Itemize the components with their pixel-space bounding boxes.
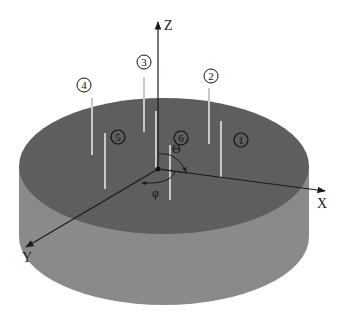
diagram-canvas: Z X Y Θ φ 4 3 2 5 6 1 <box>0 0 343 322</box>
svg-text:4: 4 <box>81 79 87 91</box>
y-axis-label: Y <box>22 250 32 265</box>
svg-text:5: 5 <box>115 131 121 143</box>
phi-label: φ <box>152 186 159 200</box>
marker-4: 4 <box>77 78 91 92</box>
svg-text:1: 1 <box>238 134 244 146</box>
marker-2: 2 <box>204 69 218 83</box>
marker-3: 3 <box>137 55 151 69</box>
cylinder-top <box>19 98 309 234</box>
z-axis-label: Z <box>164 18 173 33</box>
x-axis-label: X <box>317 196 327 211</box>
svg-text:2: 2 <box>208 70 214 82</box>
svg-text:6: 6 <box>178 132 184 144</box>
cylinder-coordinate-diagram: Z X Y Θ φ 4 3 2 5 6 1 <box>0 0 343 322</box>
svg-text:3: 3 <box>141 56 147 68</box>
